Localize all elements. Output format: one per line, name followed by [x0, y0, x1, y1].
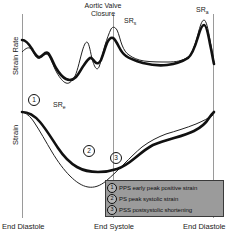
y-axis-label-strain: Strain [11, 125, 20, 145]
legend-label-3: PSS postsystolic shortening [119, 207, 192, 213]
marker-1-ppstrain: 1 [28, 94, 40, 106]
legend-label-2: PS peak systolic strain [119, 196, 178, 202]
sr-e-base: SR [53, 101, 63, 108]
legend-bullet-3: 3 [107, 205, 117, 215]
chart-canvas: Strain Rate Strain Aortic Valve Closure … [0, 0, 230, 233]
legend-label-1: PPS early peak positive strain [119, 185, 197, 191]
y-axis-label-strain-rate: Strain Rate [11, 36, 20, 75]
legend-item-pps: 1 PPS early peak positive strain [107, 182, 223, 193]
sr-a-subscript: a [206, 9, 209, 15]
legend-box: 1 PPS early peak positive strain 2 PS pe… [105, 180, 224, 217]
sr-e-subscript: e [63, 104, 66, 110]
legend-bullet-2: 2 [107, 194, 117, 204]
legend-item-ps: 2 PS peak systolic strain [107, 193, 223, 204]
sr-e-annotation: SRe [53, 101, 66, 111]
legend-bullet-1: 1 [107, 183, 117, 193]
strain-rate-curve-thin [22, 20, 214, 83]
legend-item-pss: 3 PSS postsystolic shortening [107, 204, 223, 215]
marker-2-peak-systolic-strain: 2 [83, 145, 95, 157]
x-tick-label-end-diastole-left: End Diastole [2, 222, 45, 231]
x-tick-label-end-diastole-right: End Diastole [183, 222, 226, 231]
aortic-valve-closure-annotation: Aortic Valve Closure [66, 2, 140, 18]
aortic-valve-line2: Closure [91, 10, 115, 17]
sr-s-base: SR [124, 17, 134, 24]
marker-3-postsystolic-shortening: 3 [110, 152, 122, 164]
strain-curve-thin [22, 112, 213, 187]
sr-s-subscript: s [134, 20, 137, 26]
sr-a-base: SR [196, 6, 206, 13]
aortic-valve-line1: Aortic Valve [85, 2, 122, 9]
x-tick-label-end-systole: End Systole [94, 222, 134, 231]
sr-s-annotation: SRs [124, 17, 136, 27]
sr-a-annotation: SRa [196, 6, 209, 16]
